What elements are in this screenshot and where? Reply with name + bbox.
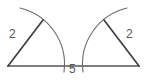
right-sector-radius: [104, 20, 139, 66]
left-sector-arc: [20, 8, 64, 72]
base-segment-label: 5: [69, 63, 76, 75]
geometry-figure: 2 2 5: [0, 0, 147, 81]
right-sector-arc: [83, 8, 127, 72]
right-radius-label: 2: [126, 28, 133, 40]
left-radius-label: 2: [9, 28, 16, 40]
